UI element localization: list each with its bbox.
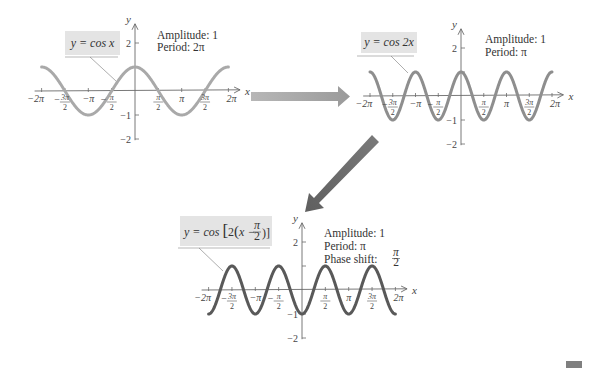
x-axis-label: x: [567, 90, 573, 102]
svg-text:−: −: [221, 293, 227, 304]
svg-text:2: 2: [527, 108, 531, 117]
tick-pi: π: [346, 292, 352, 303]
x-axis-label: x: [244, 85, 250, 97]
tick-y-neg2: −2: [287, 333, 298, 344]
arrow-right-icon: [251, 86, 350, 107]
graph-cos-2x: −2π−ππ2πxy−3π2−π2π23π22−1−2y = cos 2xAmp…: [356, 18, 574, 150]
svg-text:2: 2: [391, 108, 395, 117]
svg-text:2: 2: [156, 103, 160, 112]
y-axis-label: y: [292, 212, 298, 224]
tick-y-neg1: −1: [120, 110, 131, 121]
svg-text:π: π: [277, 292, 282, 301]
svg-text:π: π: [323, 292, 328, 301]
svg-text:Period: 2π: Period: 2π: [157, 41, 205, 53]
tick-y-2: 2: [293, 237, 298, 248]
svg-text:Period: π: Period: π: [485, 46, 527, 58]
tick-pi-over-2: π2: [320, 292, 330, 311]
svg-text:−: −: [382, 99, 388, 110]
svg-text:π: π: [110, 93, 115, 102]
tick-2pi: 2π: [226, 93, 237, 104]
svg-text:3π: 3π: [227, 292, 237, 301]
svg-text:3π: 3π: [200, 93, 210, 102]
svg-text:−: −: [268, 293, 274, 304]
tick-y-2: 2: [452, 43, 457, 54]
svg-text:)]: )]: [262, 226, 270, 240]
svg-text:Period: π: Period: π: [324, 240, 366, 252]
tick-neg-3pi-over-2: −3π2: [382, 98, 398, 117]
annotations: Amplitude: 1Period: 2π: [157, 29, 218, 53]
tick-neg-2pi: −2π: [194, 292, 212, 303]
tick-neg-2pi: −2π: [356, 98, 374, 109]
svg-text:Amplitude: 1: Amplitude: 1: [324, 227, 385, 240]
annotations: Amplitude: 1Period: π: [485, 33, 546, 58]
svg-text:2: 2: [203, 103, 207, 112]
tick-y-neg2: −2: [446, 139, 457, 150]
svg-text:2: 2: [393, 256, 399, 268]
y-axis-label: y: [125, 13, 131, 25]
graph-cos-shifted: −2π−ππ2πxy−3π2−π2π23π22−1−2y = cos [2(x …: [178, 212, 417, 344]
svg-text:2: 2: [254, 229, 260, 243]
svg-text:Amplitude: 1: Amplitude: 1: [485, 33, 546, 46]
svg-text:Phase shift:: Phase shift:: [324, 253, 377, 265]
arrow-down-left-icon: [305, 135, 379, 212]
svg-text:3π: 3π: [367, 292, 377, 301]
tick-3pi-over-2: 3π2: [367, 292, 377, 311]
svg-text:y = cos x: y = cos x: [70, 36, 115, 50]
tick-2pi: 2π: [550, 98, 561, 109]
tick-y-neg2: −2: [120, 134, 131, 145]
svg-text:2: 2: [63, 103, 67, 112]
figure-canvas: −2π−ππ2πxy−3π2−π2π23π22−1−2y = cos xAmpl…: [0, 0, 601, 375]
svg-text:π: π: [436, 98, 441, 107]
tick-2pi: 2π: [393, 292, 404, 303]
svg-text:2: 2: [277, 302, 281, 311]
tick-pi: π: [179, 93, 185, 104]
tick-neg-3pi-over-2: −3π2: [221, 292, 237, 311]
svg-text:2: 2: [436, 108, 440, 117]
svg-text:2: 2: [482, 108, 486, 117]
svg-text:−: −: [427, 99, 433, 110]
svg-text:2: 2: [110, 103, 114, 112]
tick-neg-2pi: −2π: [27, 93, 45, 104]
tick-y-2: 2: [126, 38, 131, 49]
equation-label: y = cos x: [65, 31, 120, 81]
tick-y-neg1: −1: [287, 309, 298, 320]
svg-text:3π: 3π: [524, 98, 534, 107]
equation-label: y = cos [2(x −π2)]: [178, 216, 272, 271]
tick-neg-pi-over-2: −π2: [268, 292, 284, 311]
end-mark: [566, 361, 582, 368]
tick-neg-pi: −π: [410, 98, 423, 109]
equation-label: y = cos 2x: [357, 32, 417, 73]
tick-neg-pi: −π: [249, 292, 262, 303]
y-axis-label: y: [451, 18, 457, 30]
svg-text:3π: 3π: [388, 98, 398, 107]
tick-pi: π: [504, 98, 510, 109]
tick-neg-pi-over-2: −π2: [427, 98, 443, 117]
svg-text:−: −: [54, 94, 60, 105]
svg-text:3π: 3π: [60, 93, 70, 102]
tick-neg-pi: −π: [82, 93, 95, 104]
tick-y-neg1: −1: [446, 115, 457, 126]
tick-3pi-over-2: 3π2: [200, 93, 210, 112]
svg-text:−: −: [101, 94, 107, 105]
x-axis-label: x: [411, 284, 417, 296]
svg-text:π: π: [482, 98, 487, 107]
tick-neg-pi-over-2: −π2: [101, 93, 117, 112]
graph-cos-x: −2π−ππ2πxy−3π2−π2π23π22−1−2y = cos xAmpl…: [27, 13, 250, 145]
tick-neg-3pi-over-2: −3π2: [54, 93, 70, 112]
svg-text:2: 2: [370, 302, 374, 311]
svg-text:2: 2: [323, 302, 327, 311]
annotations: Amplitude: 1Period: πPhase shift:π2: [324, 227, 400, 268]
svg-text:y = cos 2x: y = cos 2x: [363, 35, 414, 49]
svg-text:2: 2: [230, 302, 234, 311]
